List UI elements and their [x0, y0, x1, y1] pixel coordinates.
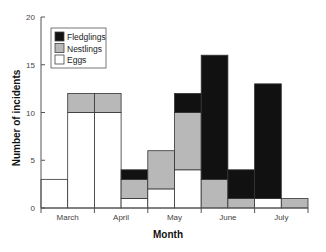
x-axis-title: Month [153, 229, 183, 240]
bar-segment-nestlings [148, 151, 175, 189]
y-tick-label: 20 [26, 13, 35, 22]
legend-swatch-eggs [55, 55, 64, 64]
bar-segment-fledglings [228, 170, 255, 199]
x-tick-label: May [167, 213, 182, 222]
bar-segment-nestlings [281, 198, 308, 208]
x-tick-label: March [57, 213, 79, 222]
bar-segment-nestlings [228, 198, 255, 208]
bar-segment-eggs [68, 113, 95, 209]
bar-segment-eggs [41, 179, 68, 208]
bar-segment-eggs [255, 198, 282, 208]
x-tick-label: April [113, 213, 129, 222]
bar-segment-nestlings [68, 93, 95, 112]
bar-segment-nestlings [175, 113, 202, 170]
bar-segment-fledglings [175, 93, 202, 112]
bar-segment-eggs [175, 170, 202, 208]
y-tick-label: 15 [26, 61, 35, 70]
legend-label-eggs: Eggs [67, 55, 86, 65]
legend-swatch-fledglings [55, 32, 64, 41]
x-tick-label: July [274, 213, 288, 222]
legend: FledglingsNestlingsEggs [51, 28, 106, 68]
stacked-bar-chart: 05101520MarchAprilMayJuneJuly Fledglings… [0, 0, 326, 252]
bar-segment-eggs [121, 198, 148, 208]
legend-label-nestlings: Nestlings [67, 44, 102, 54]
y-axis-title: Number of incidents [11, 69, 22, 166]
bar-segment-eggs [94, 113, 121, 209]
legend-label-fledglings: Fledglings [67, 32, 106, 42]
bar-segment-eggs [148, 189, 175, 208]
bars [41, 55, 308, 208]
x-tick-label: June [219, 213, 237, 222]
y-tick-label: 0 [31, 204, 36, 213]
bar-segment-nestlings [121, 179, 148, 198]
bar-segment-nestlings [94, 93, 121, 112]
bar-segment-fledglings [255, 84, 282, 199]
y-tick-label: 5 [31, 156, 36, 165]
bar-segment-fledglings [201, 55, 228, 179]
y-tick-label: 10 [26, 109, 35, 118]
legend-swatch-nestlings [55, 44, 64, 53]
bar-segment-nestlings [201, 179, 228, 208]
bar-segment-fledglings [121, 170, 148, 180]
